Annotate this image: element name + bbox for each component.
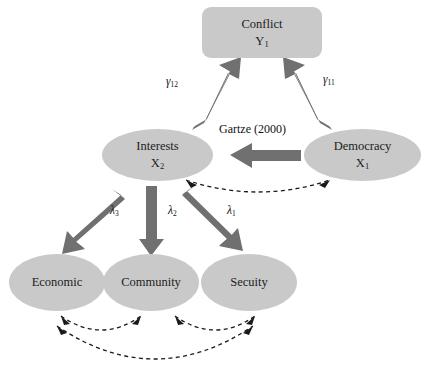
edge-layer (0, 0, 424, 391)
edge-economic-security-correlation (57, 326, 253, 359)
edge-interests-to-conflict (192, 57, 241, 130)
edge-interests-democracy-correlation (186, 180, 330, 192)
node-interests[interactable]: Interests X2 (102, 129, 213, 181)
node-interests-variable: X2 (151, 156, 164, 171)
node-democracy-label: Democracy (334, 139, 392, 154)
node-democracy[interactable]: Democracy X1 (304, 129, 421, 181)
edge-label-citation: Gartze (2000) (219, 122, 286, 137)
edge-democracy-to-interests (230, 143, 301, 168)
node-democracy-variable: X1 (356, 156, 369, 171)
edge-label-gamma-11: γ11 (323, 73, 335, 85)
edge-interests-to-security (182, 186, 243, 251)
node-economic[interactable]: Economic (9, 254, 105, 311)
node-interests-label: Interests (136, 139, 178, 154)
node-security[interactable]: Secuity (201, 254, 297, 311)
node-conflict-variable: Y1 (255, 34, 268, 49)
edge-interests-to-economic (62, 189, 125, 254)
node-community-label: Community (121, 275, 181, 290)
edge-economic-community-correlation (61, 316, 141, 330)
edge-community-security-correlation (175, 316, 255, 330)
edge-label-lambda-3: λ3 (110, 204, 119, 216)
edge-interests-to-community (139, 186, 164, 256)
edge-label-gamma-12: γ12 (166, 75, 178, 87)
node-economic-label: Economic (32, 275, 83, 290)
node-conflict[interactable]: Conflict Y1 (202, 7, 322, 58)
path-diagram: Conflict Y1 Interests X2 Democracy X1 Ec… (0, 0, 424, 391)
node-security-label: Secuity (230, 275, 268, 290)
edge-label-lambda-2: λ2 (168, 204, 177, 216)
edge-label-lambda-1: λ1 (227, 204, 236, 216)
node-conflict-label: Conflict (242, 17, 283, 32)
edge-democracy-to-conflict (283, 57, 332, 130)
node-community[interactable]: Community (103, 254, 199, 311)
